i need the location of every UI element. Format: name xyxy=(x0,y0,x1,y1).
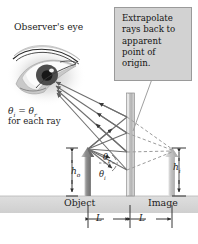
reflected-ray-midarrows xyxy=(96,103,127,152)
observer-eye-label: Observer's eye xyxy=(14,22,83,32)
object-height-label: ho xyxy=(71,167,80,178)
h-subscript-image: i xyxy=(179,167,181,174)
equals-sign: = θ xyxy=(15,106,34,116)
object-label: Object xyxy=(64,198,95,208)
h-subscript-object: o xyxy=(77,171,81,178)
for-each-ray-label: for each ray xyxy=(8,117,61,126)
object-arrow xyxy=(81,147,94,196)
distance-L-right-label: L xyxy=(139,214,145,224)
image-label: Image xyxy=(148,198,178,208)
eye-highlight xyxy=(49,69,54,73)
image-height-label: hi xyxy=(173,163,181,174)
distance-L-left-label: L xyxy=(96,214,102,224)
callout-text: Extrapolate rays back to apparent point … xyxy=(122,13,184,70)
physics-diagram-mirror-reflection: Observer's eye θi = θr for each ray Extr… xyxy=(0,0,198,244)
angle-of-incidence-label: θi xyxy=(99,170,106,181)
angle-of-reflection-label: θr xyxy=(103,153,111,164)
mirror xyxy=(127,93,135,196)
callout-pointer xyxy=(133,79,152,131)
theta-r-sub: r xyxy=(108,158,111,164)
theta-i-sub: i xyxy=(104,175,106,181)
